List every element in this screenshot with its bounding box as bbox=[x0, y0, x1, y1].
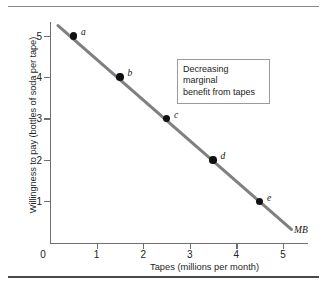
curve-label-mb: MB bbox=[294, 225, 308, 235]
data-point-label-a: a bbox=[81, 27, 86, 37]
annotation-box: Decreasing marginal benefit from tapes bbox=[177, 59, 270, 104]
marginal-benefit-curve bbox=[0, 0, 327, 290]
data-point-label-d: d bbox=[221, 151, 226, 161]
annotation-line-3: benefit from tapes bbox=[183, 87, 264, 98]
marginal-benefit-figure: 5 4 3 2 1 0 1 2 3 4 5 Willingness to pay… bbox=[0, 0, 327, 290]
data-point-label-e: e bbox=[267, 193, 271, 203]
data-point-a bbox=[70, 32, 78, 40]
data-point-label-b: b bbox=[128, 68, 133, 78]
annotation-line-2: marginal bbox=[183, 75, 264, 86]
annotation-line-1: Decreasing bbox=[183, 64, 264, 75]
plot-area: 5 4 3 2 1 0 1 2 3 4 5 Willingness to pay… bbox=[0, 0, 327, 290]
data-point-d bbox=[209, 156, 217, 164]
data-point-label-c: c bbox=[174, 110, 178, 120]
data-point-b bbox=[116, 73, 124, 81]
